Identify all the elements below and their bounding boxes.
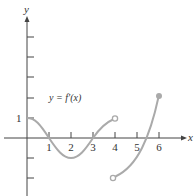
- y-ticks: [27, 37, 34, 178]
- x-axis-label: x: [187, 131, 193, 143]
- y-tick-label-1: 1: [16, 112, 22, 124]
- axes: [4, 20, 184, 196]
- svg-text:2: 2: [68, 141, 74, 153]
- open-endpoint: [110, 175, 115, 180]
- open-endpoint: [112, 116, 117, 121]
- curve-label: y = f′(x): [48, 92, 82, 104]
- y-axis-arrow-icon: [25, 16, 30, 22]
- svg-text:5: 5: [134, 141, 140, 153]
- x-ticks: [49, 132, 159, 138]
- svg-text:6: 6: [156, 141, 162, 153]
- graph: y x 1 y = f′(x) 1 2 3 4 5 6: [0, 0, 195, 196]
- y-axis-label: y: [23, 3, 29, 15]
- svg-text:4: 4: [112, 141, 118, 153]
- x-axis-arrow-icon: [181, 136, 187, 141]
- svg-text:3: 3: [90, 141, 96, 153]
- svg-text:1: 1: [46, 141, 52, 153]
- closed-endpoint: [156, 93, 162, 99]
